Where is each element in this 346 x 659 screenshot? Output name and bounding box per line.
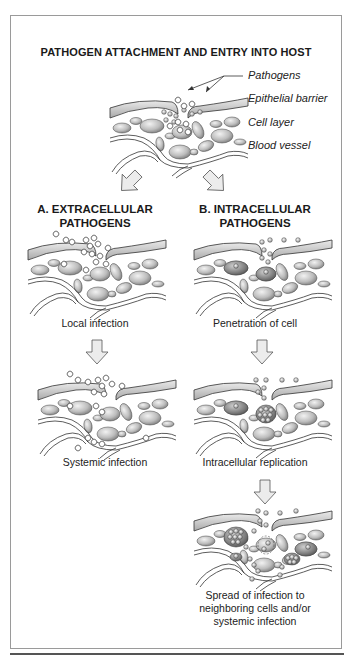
legend-pathogens: Pathogens: [248, 69, 301, 81]
pathogens-pointer: [180, 70, 250, 100]
caption-intracellular-replication: Intracellular replication: [170, 456, 340, 469]
caption-spread-line3: systemic infection: [180, 615, 330, 628]
section-b-heading: B. INTRACELLULAR PATHOGENS: [180, 202, 330, 230]
caption-spread-line1: Spread of infection to: [180, 589, 330, 602]
legend-epithelial-barrier: Epithelial barrier: [248, 92, 327, 104]
section-b-heading-line1: B. INTRACELLULAR: [180, 202, 330, 216]
caption-spread-of-infection: Spread of infection to neighboring cells…: [180, 589, 330, 628]
intracellular-replication-illustration: [192, 376, 332, 464]
caption-systemic-infection: Systemic infection: [30, 456, 180, 469]
section-a-heading: A. EXTRACELLULAR PATHOGENS: [20, 202, 170, 230]
caption-local-infection: Local infection: [20, 317, 170, 330]
bottom-rule: [10, 653, 344, 655]
extracellular-local-infection-illustration: [26, 236, 166, 324]
intracellular-penetration-illustration: [192, 236, 332, 324]
arrow-to-extracellular-icon: [117, 168, 143, 196]
extracellular-systemic-infection-illustration: [36, 376, 176, 464]
legend-blood-vessel: Blood vessel: [248, 139, 310, 151]
arrow-down-b2-icon: [254, 480, 276, 504]
legend-cell-layer: Cell layer: [248, 116, 294, 128]
caption-penetration-of-cell: Penetration of cell: [180, 317, 330, 330]
figure-title: PATHOGEN ATTACHMENT AND ENTRY INTO HOST: [10, 46, 342, 58]
section-a-heading-line1: A. EXTRACELLULAR: [20, 202, 170, 216]
arrow-down-b1-icon: [251, 340, 273, 364]
section-a-heading-line2: PATHOGENS: [20, 216, 170, 230]
spread-of-infection-illustration: [192, 507, 332, 595]
caption-spread-line2: neighboring cells and/or: [180, 602, 330, 615]
arrow-down-a1-icon: [86, 340, 108, 364]
section-b-heading-line2: PATHOGENS: [180, 216, 330, 230]
arrow-to-intracellular-icon: [202, 168, 228, 196]
